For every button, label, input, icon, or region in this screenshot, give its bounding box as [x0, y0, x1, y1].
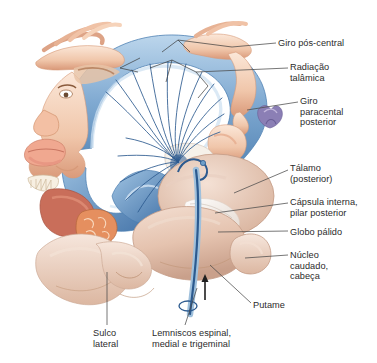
label-line: (posterior) — [290, 174, 332, 185]
label-line: Tálamo — [290, 163, 332, 174]
label-line: medial e trigeminal — [152, 339, 231, 350]
label-line: Giro — [300, 96, 343, 107]
label-radiacao-talamica: Radiaçãotalâmica — [290, 62, 329, 83]
label-talamo: Tálamo(posterior) — [290, 163, 332, 184]
label-line: cabeça — [290, 271, 328, 282]
label-globo-palido: Globo pálido — [290, 227, 342, 238]
label-putame: Putame — [253, 300, 285, 311]
homunculus-hand-left — [36, 24, 125, 70]
label-line: paracental — [300, 107, 343, 118]
caudate-head — [230, 234, 271, 274]
label-line: Globo pálido — [290, 227, 342, 238]
label-line: Giro pós-central — [278, 38, 344, 49]
label-nucleo-caudado: Núcleocaudado,cabeça — [290, 250, 328, 282]
label-line: caudado, — [290, 261, 328, 272]
figure-canvas: Giro pós-centralRadiaçãotalâmicaGiropara… — [0, 0, 377, 363]
label-line: Sulco — [93, 328, 118, 339]
homunculus-hand-right — [184, 23, 252, 59]
label-giro-pos-central: Giro pós-central — [278, 38, 344, 49]
label-line: posterior — [300, 117, 343, 128]
label-line: Núcleo — [290, 250, 328, 261]
label-line: Putame — [253, 300, 285, 311]
label-line: lateral — [93, 339, 118, 350]
label-giro-paracentral: Giroparacentalposterior — [300, 96, 343, 128]
label-line: pilar posterior — [290, 208, 358, 219]
label-lemniscos: Lemniscos espinal,medial e trigeminal — [152, 328, 231, 349]
label-line: talâmica — [290, 73, 329, 84]
label-line: Radiação — [290, 62, 329, 73]
label-line: Lemniscos espinal, — [152, 328, 231, 339]
label-sulco-lateral: Sulcolateral — [93, 328, 118, 349]
label-capsula-interna: Cápsula interna,pilar posterior — [290, 197, 358, 218]
label-line: Cápsula interna, — [290, 197, 358, 208]
